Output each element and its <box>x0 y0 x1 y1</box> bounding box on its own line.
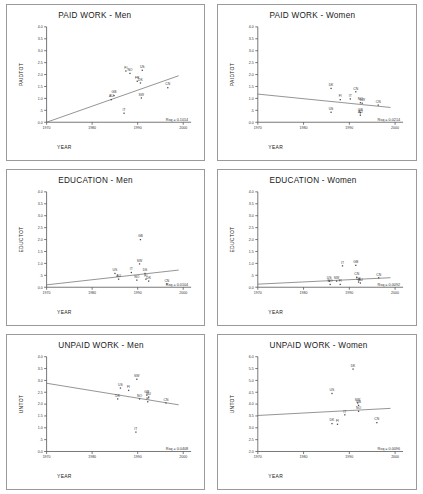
x-axis-label: YEAR <box>57 474 72 479</box>
svg-text:2.0: 2.0 <box>249 450 254 454</box>
x-axis-label: YEAR <box>57 310 72 315</box>
point-label: CN <box>165 82 170 86</box>
svg-text:0.0: 0.0 <box>249 121 254 125</box>
point-label: CN <box>376 100 381 104</box>
point-label: NO <box>356 406 361 410</box>
svg-text:2.0: 2.0 <box>249 73 254 77</box>
svg-text:4.5: 4.5 <box>249 391 254 395</box>
point-label: FI <box>146 397 149 401</box>
point-label: DK <box>351 364 356 368</box>
point-label: NO <box>328 279 333 283</box>
svg-text:1980: 1980 <box>300 455 308 459</box>
svg-text:.5: .5 <box>40 438 43 442</box>
y-axis-label: EDUCTOT <box>19 227 24 253</box>
svg-text:.5: .5 <box>251 274 254 278</box>
chart-cell: EDUCATION - Men0.0.51.01.52.02.53.03.54.… <box>0 165 211 330</box>
point-label: IT <box>343 410 346 414</box>
point-label: NU <box>146 392 151 396</box>
rsq-annotation: Rsq = 0.0092 <box>378 283 401 287</box>
svg-text:1990: 1990 <box>345 126 353 130</box>
point-label: FI <box>336 419 339 423</box>
point-label: FI <box>339 279 342 283</box>
svg-text:1970: 1970 <box>43 455 51 459</box>
point-label: AU <box>358 110 363 114</box>
svg-text:.5: .5 <box>40 109 43 113</box>
svg-text:1.0: 1.0 <box>38 262 43 266</box>
svg-text:1990: 1990 <box>345 291 353 295</box>
svg-text:3.0: 3.0 <box>249 426 254 430</box>
point-label: SW <box>137 259 143 263</box>
svg-text:1990: 1990 <box>134 455 142 459</box>
svg-text:.5: .5 <box>251 109 254 113</box>
svg-text:5.0: 5.0 <box>249 379 254 383</box>
point-label: NO <box>137 394 142 398</box>
point-label: CN <box>374 417 379 421</box>
point-label: IT <box>349 94 352 98</box>
point-label: DK <box>329 83 334 87</box>
svg-text:3.5: 3.5 <box>249 202 254 206</box>
chart-panel: PAID WORK - Men0.0.51.01.52.02.53.03.54.… <box>6 4 205 161</box>
x-axis-label: YEAR <box>57 145 72 150</box>
svg-text:1970: 1970 <box>254 291 262 295</box>
plot-area: 0.0.51.01.52.02.53.03.54.019701980199020… <box>218 170 416 325</box>
svg-text:1990: 1990 <box>134 291 142 295</box>
point-label: DK <box>330 418 335 422</box>
svg-text:2.5: 2.5 <box>38 391 43 395</box>
svg-text:5.5: 5.5 <box>249 367 254 371</box>
svg-text:1970: 1970 <box>254 126 262 130</box>
svg-text:0.0: 0.0 <box>38 121 43 125</box>
svg-text:2.5: 2.5 <box>249 438 254 442</box>
svg-text:3.5: 3.5 <box>38 37 43 41</box>
plot-area: 2.02.53.03.54.04.55.05.56.01970198019902… <box>218 335 416 489</box>
point-label: AU <box>116 274 121 278</box>
svg-text:1.0: 1.0 <box>38 97 43 101</box>
plot-area: 0.0.51.01.52.02.53.03.54.019701980199020… <box>7 5 204 160</box>
point-label: CN <box>353 87 358 91</box>
point-label: NO <box>127 68 132 72</box>
point-label: CN <box>163 398 168 402</box>
svg-text:3.5: 3.5 <box>38 202 43 206</box>
point-label: DK <box>146 276 151 280</box>
point-label: FI <box>127 385 130 389</box>
point-label: US <box>140 65 145 69</box>
point-label: IT <box>130 267 133 271</box>
svg-text:3.5: 3.5 <box>249 37 254 41</box>
point-label: US <box>329 107 334 111</box>
x-axis-label: YEAR <box>268 310 283 315</box>
svg-text:2000: 2000 <box>391 455 399 459</box>
point-label: AU <box>109 94 114 98</box>
x-axis-label: YEAR <box>268 145 283 150</box>
panel-grid: PAID WORK - Men0.0.51.01.52.02.53.03.54.… <box>0 0 423 494</box>
x-axis-label: YEAR <box>268 474 283 479</box>
svg-text:0.0: 0.0 <box>38 286 43 290</box>
svg-text:1980: 1980 <box>300 126 308 130</box>
svg-text:4.0: 4.0 <box>249 190 254 194</box>
svg-text:1980: 1980 <box>300 291 308 295</box>
svg-text:2000: 2000 <box>179 126 187 130</box>
rsq-annotation: Rsq = 0.0214 <box>378 118 401 122</box>
svg-text:3.0: 3.0 <box>249 214 254 218</box>
point-label: IT <box>341 261 344 265</box>
svg-text:4.0: 4.0 <box>38 190 43 194</box>
svg-text:1980: 1980 <box>88 291 96 295</box>
svg-text:0.0: 0.0 <box>38 450 43 454</box>
svg-text:4.0: 4.0 <box>249 402 254 406</box>
chart-cell: UNPAID WORK - Women2.02.53.03.54.04.55.0… <box>211 330 423 494</box>
svg-text:2000: 2000 <box>391 291 399 295</box>
svg-text:1.5: 1.5 <box>38 414 43 418</box>
chart-panel: UNPAID WORK - Women2.02.53.03.54.04.55.0… <box>217 334 417 490</box>
svg-text:2.5: 2.5 <box>38 226 43 230</box>
svg-text:1970: 1970 <box>43 126 51 130</box>
point-label: GB <box>353 260 359 264</box>
point-label: FI <box>339 94 342 98</box>
chart-cell: PAID WORK - Women0.0.51.01.52.02.53.03.5… <box>211 0 423 165</box>
rsq-annotation: Rsq = 0.1014 <box>166 118 188 122</box>
svg-text:3.0: 3.0 <box>249 49 254 53</box>
svg-text:0.0: 0.0 <box>249 286 254 290</box>
rsq-annotation: Rsq = 0.0408 <box>166 448 188 452</box>
point-label: DS <box>143 268 148 272</box>
svg-text:1980: 1980 <box>88 126 96 130</box>
svg-text:3.0: 3.0 <box>38 379 43 383</box>
chart-cell: EDUCATION - Women0.0.51.01.52.02.53.03.5… <box>211 165 423 330</box>
svg-text:2000: 2000 <box>179 291 187 295</box>
